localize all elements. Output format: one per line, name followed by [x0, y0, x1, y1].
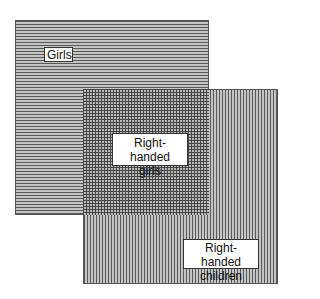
- right-handed-children-label: Right-handed children: [183, 239, 259, 269]
- intersection-label-line1: Right-handed: [116, 136, 184, 164]
- intersection-label-line2: girls: [116, 164, 184, 178]
- right-handed-girls-label: Right-handed girls: [112, 133, 188, 166]
- children-label-line1: Right-handed: [187, 241, 255, 269]
- girls-label-text: Girls: [47, 48, 72, 62]
- girls-label: Girls: [44, 47, 73, 62]
- children-label-line2: children: [187, 269, 255, 283]
